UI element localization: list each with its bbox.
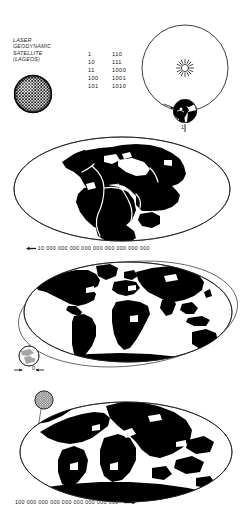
map-svg-past [0,132,244,250]
binary-left: 100 [88,75,112,83]
binary-left: 10 [88,59,112,67]
lageos-sphere-icon [34,390,54,410]
earth-globe-icon [19,346,39,366]
map-svg-future [0,380,244,529]
scale-caption-future-text: 100 000 000 000 000 000 000 000 000 [15,499,119,505]
earth-globe-icon [172,99,197,123]
present-day-world-map [0,256,244,384]
solar-orbit-diagram [133,18,237,136]
future-continents-map [0,380,244,529]
pangaea-supercontinent-map [0,132,244,258]
binary-left: 101 [88,83,112,91]
left-arrow-icon [26,246,36,251]
lageos-label: LASER GEODYNAMIC SATELLITE (LAGEOS) [13,37,75,63]
zero-tick-arrow-right [35,368,38,371]
orbit-tick-label: 1 [181,124,184,130]
sun-icon [177,60,194,77]
map-svg-present [0,256,244,384]
binary-left: 11 [88,67,112,75]
lageos-sphere-icon [13,74,53,114]
zero-tick-arrow-left [19,368,22,371]
figure-page: LASER GEODYNAMIC SATELLITE (LAGEOS) [0,0,244,529]
binary-left: 1 [88,51,112,59]
scale-caption-future: 100 000 000 000 000 000 000 000 000 [15,499,136,505]
earth-zero-label: 0 [32,365,35,371]
header-panel: LASER GEODYNAMIC SATELLITE (LAGEOS) [0,0,244,135]
orbit-path [142,25,228,111]
right-arrow-icon [124,500,136,505]
lageos-label-line4: (LAGEOS) [13,56,75,62]
scale-caption-past-text: 10 000 000 000 000 000 000 000 000 000 [38,245,150,251]
scale-caption-past: 10 000 000 000 000 000 000 000 000 000 [26,245,150,251]
